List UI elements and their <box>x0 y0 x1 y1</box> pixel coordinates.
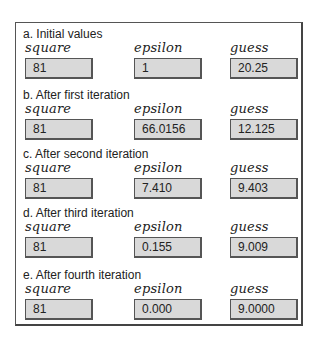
guess-value-box: 9.009 <box>230 237 298 258</box>
guess-value-box: 9.403 <box>230 178 298 199</box>
label-square: square <box>25 40 71 56</box>
square-value-box: 81 <box>25 119 93 140</box>
section-initial-values: a. Initial values square epsilon guess 8… <box>16 27 301 87</box>
label-square: square <box>25 281 71 297</box>
iteration-trace-frame: a. Initial values square epsilon guess 8… <box>15 22 303 326</box>
label-guess: guess <box>230 281 269 297</box>
label-epsilon: epsilon <box>134 101 183 117</box>
epsilon-value-box: 0.155 <box>134 237 202 258</box>
label-epsilon: epsilon <box>134 219 183 235</box>
epsilon-value-box: 1 <box>134 58 202 79</box>
section-heading: d. After third iteration <box>23 206 134 220</box>
section-heading: a. Initial values <box>23 27 102 41</box>
label-guess: guess <box>230 101 269 117</box>
label-epsilon: epsilon <box>134 160 183 176</box>
epsilon-value-box: 7.410 <box>134 178 202 199</box>
section-heading: e. After fourth iteration <box>23 268 141 282</box>
label-guess: guess <box>230 160 269 176</box>
epsilon-value-box: 66.0156 <box>134 119 202 140</box>
square-value-box: 81 <box>25 237 93 258</box>
guess-value-box: 20.25 <box>230 58 298 79</box>
square-value-box: 81 <box>25 58 93 79</box>
section-second-iteration: c. After second iteration square epsilon… <box>16 147 301 207</box>
epsilon-value-box: 0.000 <box>134 299 202 320</box>
section-third-iteration: d. After third iteration square epsilon … <box>16 206 301 266</box>
label-epsilon: epsilon <box>134 281 183 297</box>
section-heading: c. After second iteration <box>23 147 148 161</box>
section-fourth-iteration: e. After fourth iteration square epsilon… <box>16 268 301 328</box>
section-first-iteration: b. After first iteration square epsilon … <box>16 88 301 148</box>
guess-value-box: 12.125 <box>230 119 298 140</box>
guess-value-box: 9.0000 <box>230 299 298 320</box>
label-guess: guess <box>230 219 269 235</box>
square-value-box: 81 <box>25 178 93 199</box>
label-square: square <box>25 219 71 235</box>
section-heading: b. After first iteration <box>23 88 130 102</box>
label-square: square <box>25 101 71 117</box>
label-square: square <box>25 160 71 176</box>
label-epsilon: epsilon <box>134 40 183 56</box>
label-guess: guess <box>230 40 269 56</box>
square-value-box: 81 <box>25 299 93 320</box>
